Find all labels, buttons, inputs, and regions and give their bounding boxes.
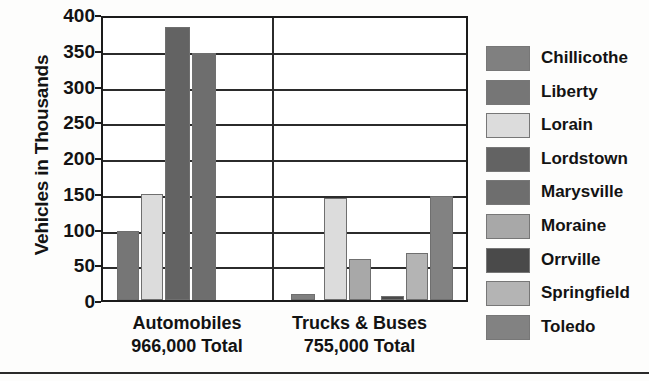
y-tick-label-0: 0 bbox=[33, 292, 95, 311]
category-name: Automobiles bbox=[112, 312, 262, 335]
legend-swatch-orrville bbox=[486, 248, 530, 273]
legend-swatch-liberty bbox=[486, 80, 530, 105]
legend-swatch-springfield bbox=[486, 281, 530, 306]
chart-page: Vehicles in Thousands 050100150200250300… bbox=[0, 0, 649, 381]
category-label-automobiles: Automobiles966,000 Total bbox=[112, 312, 262, 358]
legend-swatch-moraine bbox=[486, 214, 530, 239]
y-tick-label-350: 350 bbox=[33, 42, 95, 61]
bottom-rule bbox=[0, 372, 649, 374]
legend-item-lorain[interactable]: Lorain bbox=[486, 111, 646, 145]
plot-area bbox=[101, 16, 468, 302]
bar-springfield-trucks-buses bbox=[406, 253, 428, 300]
y-tick-label-300: 300 bbox=[33, 78, 95, 97]
legend-item-moraine[interactable]: Moraine bbox=[486, 212, 646, 246]
legend-item-chillicothe[interactable]: Chillicothe bbox=[486, 44, 646, 78]
category-divider bbox=[272, 18, 274, 300]
legend-item-marysville[interactable]: Marysville bbox=[486, 178, 646, 212]
y-tick-label-200: 200 bbox=[33, 149, 95, 168]
bar-toledo-trucks-buses bbox=[430, 196, 453, 300]
legend-label: Liberty bbox=[541, 82, 598, 102]
gridline-200 bbox=[103, 160, 466, 162]
legend-swatch-chillicothe bbox=[486, 46, 530, 71]
bar-chillicothe-trucks-buses bbox=[291, 294, 315, 300]
category-label-trucks-buses: Trucks & Buses755,000 Total bbox=[272, 312, 447, 358]
legend-item-toledo[interactable]: Toledo bbox=[486, 313, 646, 347]
bar-orrville-trucks-buses bbox=[381, 296, 404, 300]
bar-marysville-automobiles bbox=[192, 53, 216, 300]
legend-item-lordstown[interactable]: Lordstown bbox=[486, 145, 646, 179]
legend-label: Springfield bbox=[541, 283, 630, 303]
legend-label: Moraine bbox=[541, 216, 606, 236]
bar-lorain-automobiles bbox=[141, 194, 163, 300]
legend-swatch-lorain bbox=[486, 113, 530, 138]
y-tick-label-250: 250 bbox=[33, 113, 95, 132]
category-name: Trucks & Buses bbox=[272, 312, 447, 335]
legend-swatch-marysville bbox=[486, 180, 530, 205]
y-tick-label-50: 50 bbox=[33, 256, 95, 275]
legend-label: Toledo bbox=[541, 317, 595, 337]
legend-label: Chillicothe bbox=[541, 48, 628, 68]
category-total: 966,000 Total bbox=[112, 335, 262, 358]
gridline-350 bbox=[103, 53, 466, 55]
y-tick-label-100: 100 bbox=[33, 221, 95, 240]
legend-item-orrville[interactable]: Orrville bbox=[486, 246, 646, 280]
legend-label: Orrville bbox=[541, 250, 601, 270]
legend-item-springfield[interactable]: Springfield bbox=[486, 279, 646, 313]
legend-item-liberty[interactable]: Liberty bbox=[486, 78, 646, 112]
y-tick-label-150: 150 bbox=[33, 185, 95, 204]
plot-inner bbox=[103, 18, 466, 300]
y-tick-label-400: 400 bbox=[33, 6, 95, 25]
legend-swatch-toledo bbox=[486, 315, 530, 340]
bar-lordstown-automobiles bbox=[165, 27, 190, 300]
legend-label: Lorain bbox=[541, 115, 593, 135]
legend-swatch-lordstown bbox=[486, 147, 530, 172]
bar-lorain-trucks-buses bbox=[324, 198, 347, 300]
category-total: 755,000 Total bbox=[272, 335, 447, 358]
legend-label: Marysville bbox=[541, 182, 623, 202]
gridline-300 bbox=[103, 89, 466, 91]
gridline-250 bbox=[103, 124, 466, 126]
bar-liberty-automobiles bbox=[117, 231, 139, 300]
legend-label: Lordstown bbox=[541, 149, 628, 169]
bar-moraine-trucks-buses bbox=[349, 259, 371, 300]
legend: ChillicotheLibertyLorainLordstownMarysvi… bbox=[486, 44, 646, 346]
